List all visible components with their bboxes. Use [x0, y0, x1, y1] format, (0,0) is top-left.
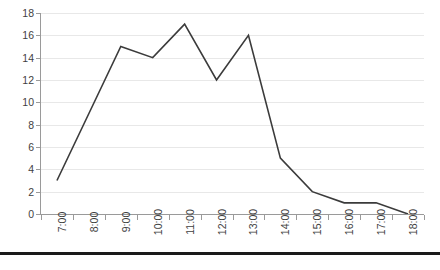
x-axis-tick-label: 7:00 — [57, 212, 68, 232]
x-axis-tick-label: 15:00 — [312, 209, 323, 235]
y-axis-tick-label: 2 — [4, 187, 34, 197]
y-axis-tick-label: 16 — [4, 30, 34, 40]
y-axis-tick — [36, 58, 41, 59]
x-axis-tick-label: 8:00 — [89, 212, 100, 232]
bottom-rule — [0, 252, 440, 255]
y-axis-tick-label: 4 — [4, 164, 34, 174]
x-axis-tick-label-wrap: 17:00 — [369, 222, 383, 252]
y-axis-tick — [36, 125, 41, 126]
y-axis-tick — [36, 35, 41, 36]
y-axis-tick — [36, 147, 41, 148]
y-axis-tick — [36, 13, 41, 14]
y-axis-tick — [36, 192, 41, 193]
x-axis-tick-label-wrap: 10:00 — [146, 222, 160, 252]
y-axis-tick-label: 10 — [4, 97, 34, 107]
x-axis-tick — [360, 215, 361, 220]
series-layer — [41, 13, 424, 214]
x-axis-tick-label-wrap: 9:00 — [114, 222, 128, 252]
y-axis-tick-label: 12 — [4, 75, 34, 85]
y-axis-tick-label-wrap: 2 — [0, 187, 34, 197]
x-axis-tick — [73, 215, 74, 220]
y-axis-tick-label-wrap: 8 — [0, 120, 34, 130]
x-axis-tick-label-wrap: 8:00 — [82, 222, 96, 252]
x-axis-tick-label: 18:00 — [408, 209, 419, 235]
x-axis-tick-label-wrap: 7:00 — [50, 222, 64, 252]
x-axis-tick — [233, 215, 234, 220]
y-axis-tick-label: 8 — [4, 120, 34, 130]
x-axis-tick-label: 12:00 — [217, 209, 228, 235]
x-axis-tick-label-wrap: 14:00 — [273, 222, 287, 252]
y-axis-tick-label-wrap: 10 — [0, 97, 34, 107]
y-axis-tick-label-wrap: 0 — [0, 209, 34, 219]
x-axis-tick — [424, 215, 425, 220]
y-axis-tick — [36, 80, 41, 81]
x-axis-tick-label-wrap: 18:00 — [401, 222, 415, 252]
y-axis-tick — [36, 102, 41, 103]
y-axis-tick-label-wrap: 4 — [0, 164, 34, 174]
x-axis-tick-label: 9:00 — [121, 212, 132, 232]
x-axis-tick-label: 13:00 — [248, 209, 259, 235]
plot-area — [41, 13, 424, 214]
series-line-path-container — [41, 13, 424, 214]
x-axis-tick — [328, 215, 329, 220]
x-axis-tick-label-wrap: 16:00 — [337, 222, 351, 252]
series-line-path — [57, 24, 408, 214]
y-axis-tick-label: 18 — [4, 8, 34, 18]
x-axis-tick — [105, 215, 106, 220]
x-axis-tick-label-wrap: 12:00 — [210, 222, 224, 252]
line-chart-figure: 024681012141618 7:008:009:0010:0011:0012… — [0, 0, 440, 270]
y-axis-line — [40, 13, 41, 215]
y-axis-tick — [36, 169, 41, 170]
y-axis-tick-label-wrap: 6 — [0, 142, 34, 152]
y-axis-tick-label-wrap: 14 — [0, 53, 34, 63]
x-axis-tick — [169, 215, 170, 220]
x-axis-tick-label: 10:00 — [153, 209, 164, 235]
x-axis-tick-label-wrap: 15:00 — [305, 222, 319, 252]
x-axis-tick — [137, 215, 138, 220]
y-axis-tick-label: 0 — [4, 209, 34, 219]
x-axis-tick-label: 11:00 — [185, 209, 196, 235]
x-axis-tick — [201, 215, 202, 220]
x-axis-tick — [392, 215, 393, 220]
y-axis-tick-label-wrap: 18 — [0, 8, 34, 18]
x-axis-tick-label: 16:00 — [344, 209, 355, 235]
x-axis-tick-label: 14:00 — [280, 209, 291, 235]
y-axis-tick-label: 6 — [4, 142, 34, 152]
x-axis-tick — [264, 215, 265, 220]
x-axis-tick — [296, 215, 297, 220]
y-axis-tick-label-wrap: 12 — [0, 75, 34, 85]
x-axis-tick — [41, 215, 42, 220]
x-axis-tick-label-wrap: 13:00 — [241, 222, 255, 252]
y-axis-tick-label: 14 — [4, 53, 34, 63]
y-axis-tick-label-wrap: 16 — [0, 30, 34, 40]
x-axis-tick-label: 17:00 — [376, 209, 387, 235]
x-axis-tick-label-wrap: 11:00 — [178, 222, 192, 252]
